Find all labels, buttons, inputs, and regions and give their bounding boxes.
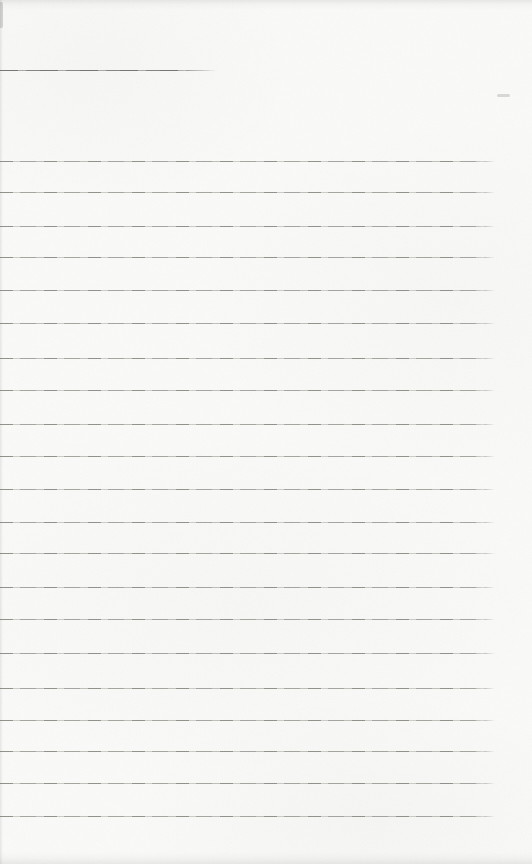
ruled-line — [0, 619, 495, 620]
ruled-line — [0, 653, 495, 654]
paper-grain-texture — [0, 0, 532, 864]
ruled-line — [0, 783, 495, 784]
ruled-line — [0, 323, 495, 324]
ruled-line — [0, 192, 495, 193]
paper-corner-notch-icon — [0, 2, 3, 28]
ruled-line — [0, 489, 495, 490]
ruled-line — [0, 290, 495, 291]
ruled-line — [0, 587, 495, 588]
ruled-line — [0, 226, 495, 227]
ruled-line — [0, 358, 495, 359]
header-underline — [0, 70, 217, 71]
smudge-mark — [497, 94, 510, 97]
ruled-line — [0, 553, 495, 554]
paper-edge-top — [0, 0, 532, 10]
ruled-line — [0, 424, 495, 425]
ruled-line — [0, 816, 495, 817]
paper-edge-bottom — [0, 852, 532, 864]
ruled-line — [0, 257, 495, 258]
ruled-line — [0, 161, 495, 162]
ruled-line — [0, 456, 495, 457]
ruled-line — [0, 688, 495, 689]
notebook-page — [0, 0, 532, 864]
ruled-line — [0, 522, 495, 523]
ruled-line — [0, 390, 495, 391]
ruled-line — [0, 751, 495, 752]
ruled-line — [0, 720, 495, 721]
paper-edge-left — [0, 0, 3, 864]
